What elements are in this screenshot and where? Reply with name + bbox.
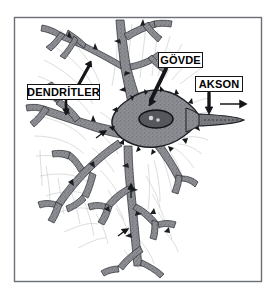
label-soma: GÖVDE — [158, 52, 203, 68]
label-dendrites: DENDRİTLER — [27, 84, 100, 100]
nucleolus-secondary — [156, 118, 160, 122]
neuron-diagram-figure: DENDRİTLER GÖVDE AKSON — [0, 0, 278, 295]
label-axon: AKSON — [195, 76, 243, 92]
nucleus — [139, 110, 173, 128]
nucleolus — [149, 116, 153, 120]
neuron-illustration — [0, 0, 278, 295]
